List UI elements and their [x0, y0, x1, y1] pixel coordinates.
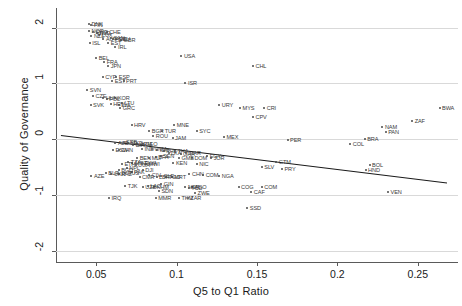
data-point [275, 161, 277, 163]
point-label: SLV [264, 164, 274, 170]
x-tick [177, 262, 178, 266]
point-label: MYS [243, 105, 255, 111]
data-point [184, 186, 186, 188]
point-label: ROU [156, 133, 168, 139]
point-label: GRC [123, 105, 135, 111]
data-point [121, 163, 123, 165]
data-point [102, 97, 104, 99]
data-point [261, 186, 263, 188]
data-point [123, 80, 125, 82]
point-label: BRA [367, 136, 378, 142]
data-point [160, 175, 162, 177]
data-point [106, 98, 108, 100]
point-label: COM [264, 184, 277, 190]
data-point [172, 137, 174, 139]
plot-area: DNKFINNORSWENLDCHELUXNZLAUTCANAUSDEUGBRI… [56, 8, 458, 262]
data-point [206, 155, 208, 157]
data-point [160, 155, 162, 157]
data-point [121, 102, 123, 104]
point-label: SYC [199, 128, 210, 134]
data-point [160, 183, 162, 185]
point-label: FIN [94, 22, 103, 28]
data-point [114, 46, 116, 48]
x-tick-label: 0.1 [169, 268, 184, 280]
data-point [173, 124, 175, 126]
data-point [263, 107, 265, 109]
x-tick-label: 0.15 [247, 268, 267, 280]
point-label: ZAR [190, 195, 201, 201]
point-label: CHL [255, 63, 266, 69]
point-label: AZE [94, 173, 105, 179]
point-label: CPV [255, 114, 266, 120]
data-point [287, 139, 289, 141]
y-tick-label: -1 [33, 186, 45, 204]
data-point [142, 186, 144, 188]
data-point [123, 141, 125, 143]
data-point [178, 157, 180, 159]
data-point [202, 174, 204, 176]
data-point [439, 107, 441, 109]
point-label: MMR [158, 195, 171, 201]
data-point [187, 197, 189, 199]
data-point [250, 191, 252, 193]
data-point [118, 104, 120, 106]
y-tick-label: 0 [33, 130, 45, 148]
data-point [148, 174, 150, 176]
point-label: NIC [199, 161, 208, 167]
data-point [114, 142, 116, 144]
data-point [381, 126, 383, 128]
data-point [188, 173, 190, 175]
x-axis-title: Q5 to Q1 Ratio [0, 285, 462, 297]
data-point [124, 185, 126, 187]
data-point [136, 143, 138, 145]
point-label: MEX [227, 134, 239, 140]
data-point [151, 148, 153, 150]
point-label: ISL [92, 40, 100, 46]
x-tick [257, 262, 258, 266]
data-point [110, 173, 112, 175]
data-point [124, 172, 126, 174]
data-point [155, 197, 157, 199]
data-point [132, 144, 134, 146]
data-point [142, 143, 144, 145]
point-label: PRY [284, 166, 295, 172]
data-point [161, 130, 163, 132]
y-tick [52, 28, 56, 29]
data-point [105, 172, 107, 174]
data-point [156, 149, 158, 151]
data-point [147, 185, 149, 187]
data-point [95, 57, 97, 59]
point-label: CRI [267, 105, 276, 111]
data-point [178, 197, 180, 199]
y-axis-title: Quality of Governance [18, 24, 30, 244]
data-point [385, 131, 387, 133]
data-point [364, 138, 366, 140]
point-label: IRQ [112, 195, 122, 201]
x-tick-label: 0.25 [408, 268, 428, 280]
data-point [90, 175, 92, 177]
data-point [88, 30, 90, 32]
data-point [108, 197, 110, 199]
data-point [127, 142, 129, 144]
point-label: SEN [163, 153, 174, 159]
data-point [102, 76, 104, 78]
data-point [92, 95, 94, 97]
point-label: RUS [128, 170, 140, 176]
data-point [261, 166, 263, 168]
point-label: JOR [214, 155, 225, 161]
data-point [103, 61, 105, 63]
y-tick-label: 1 [33, 74, 45, 92]
point-label: USA [184, 53, 195, 59]
data-point [131, 124, 133, 126]
data-point [281, 168, 283, 170]
point-label: NGA [222, 173, 234, 179]
data-point [114, 97, 116, 99]
data-point [246, 207, 248, 209]
data-point [112, 149, 114, 151]
data-point [252, 65, 254, 67]
point-label: ISR [188, 80, 197, 86]
point-label: JPN [111, 63, 121, 69]
y-tick [52, 139, 56, 140]
data-point [102, 38, 104, 40]
data-point [90, 24, 92, 26]
